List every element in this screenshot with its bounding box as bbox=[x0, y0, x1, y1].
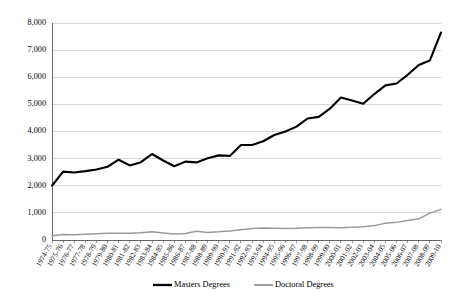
y-axis-tick-label: 8,000 bbox=[28, 18, 46, 27]
series-line-doctoral-degrees bbox=[52, 209, 441, 235]
gridlines-group bbox=[52, 23, 441, 240]
y-axis-tick-label: 3,000 bbox=[28, 154, 46, 163]
line-chart: 8,0007,0006,0005,0004,0003,0002,0001,000… bbox=[0, 0, 464, 303]
y-axis-tick-label: 5,000 bbox=[28, 99, 46, 108]
x-axis-labels-group: 1974-751975-761976-771977-781978-791979-… bbox=[34, 242, 443, 268]
chart-container: 8,0007,0006,0005,0004,0003,0002,0001,000… bbox=[0, 0, 464, 303]
series-line-masters-degrees bbox=[52, 32, 441, 185]
y-axis-tick-label: 2,000 bbox=[28, 181, 46, 190]
y-axis-tick-label: 4,000 bbox=[28, 126, 46, 135]
legend: Masters DegreesDoctoral Degrees bbox=[153, 280, 334, 289]
y-axis-tick-label: 1,000 bbox=[28, 208, 46, 217]
x-axis-tickmarks-group bbox=[52, 240, 441, 243]
y-axis-labels-group: 8,0007,0006,0005,0004,0003,0002,0001,000… bbox=[28, 18, 46, 244]
legend-label: Doctoral Degrees bbox=[275, 280, 334, 289]
y-axis-tick-label: 6,000 bbox=[28, 72, 46, 81]
series-group bbox=[52, 32, 441, 235]
legend-label: Masters Degrees bbox=[174, 280, 230, 289]
y-axis-tick-label: 7,000 bbox=[28, 45, 46, 54]
